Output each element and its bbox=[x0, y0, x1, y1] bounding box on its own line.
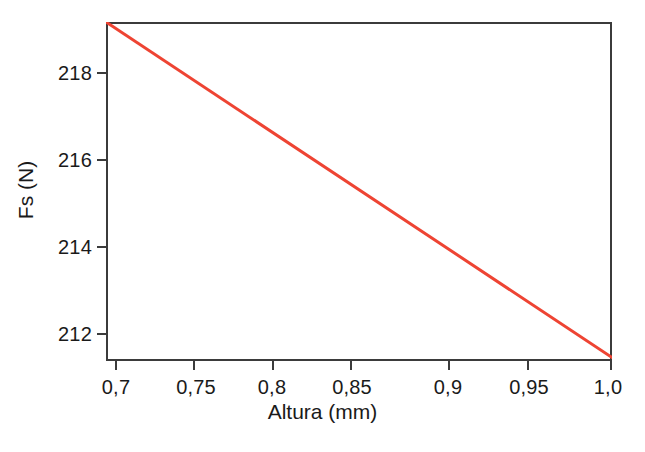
x-tick-mark bbox=[610, 361, 612, 370]
y-tick-mark bbox=[97, 72, 106, 74]
x-tick-mark bbox=[448, 361, 450, 370]
plot-canvas bbox=[106, 22, 612, 361]
x-tick-label: 0,9 bbox=[434, 376, 462, 399]
x-tick-label: 0,7 bbox=[102, 376, 130, 399]
data-series-line bbox=[106, 22, 612, 357]
y-tick-label: 214 bbox=[50, 236, 92, 259]
y-tick-mark bbox=[97, 333, 106, 335]
x-tick-mark bbox=[193, 361, 195, 370]
x-tick-mark bbox=[115, 361, 117, 370]
x-tick-label: 0,75 bbox=[176, 376, 216, 399]
x-tick-mark bbox=[350, 361, 352, 370]
y-tick-mark bbox=[97, 159, 106, 161]
x-tick-mark bbox=[527, 361, 529, 370]
y-tick-mark bbox=[97, 246, 106, 248]
x-tick-label: 1,0 bbox=[594, 376, 622, 399]
x-tick-label: 0,95 bbox=[509, 376, 549, 399]
x-tick-label: 0,85 bbox=[332, 376, 372, 399]
x-tick-mark bbox=[272, 361, 274, 370]
x-axis-label: Altura (mm) bbox=[0, 400, 645, 424]
chart-figure: 0,7 0,75 0,8 0,85 0,9 0,95 1,0 218 216 2… bbox=[0, 0, 645, 452]
y-axis-label: Fs (N) bbox=[14, 130, 38, 250]
y-tick-label: 218 bbox=[50, 62, 92, 85]
x-tick-label: 0,8 bbox=[258, 376, 286, 399]
y-tick-label: 216 bbox=[50, 149, 92, 172]
y-tick-label: 212 bbox=[50, 323, 92, 346]
